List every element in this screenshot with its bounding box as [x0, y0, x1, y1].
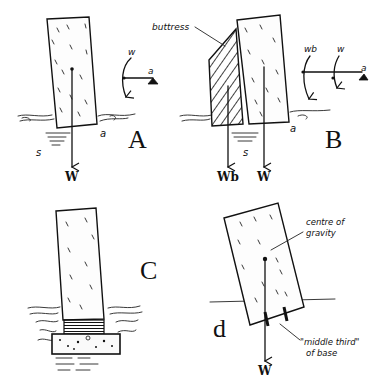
middle-third-label-line1: "middle third"	[300, 337, 360, 347]
subsoil-lines	[56, 358, 98, 370]
cog-label-line2: gravity	[306, 228, 337, 238]
cog-label-line1: centre of	[306, 217, 346, 227]
weight-label-b: W	[256, 170, 271, 184]
pivot-label-a: a	[100, 128, 106, 139]
moment-buttress-label: wb	[304, 44, 317, 54]
panel-b: buttress s Wb W a wb w a B	[152, 15, 368, 184]
panel-d: centre of gravity W "middle third" of ba…	[210, 203, 360, 378]
moment-pivot-label-a: a	[148, 66, 154, 76]
tilted-wall-block	[224, 203, 304, 325]
footing-courses	[64, 320, 104, 334]
buttress-label: buttress	[152, 22, 189, 32]
moment-label-a: w	[128, 47, 136, 57]
pivot-triangle-a	[148, 78, 158, 84]
weight-label-a: W	[64, 170, 79, 184]
panel-label-c: C	[140, 256, 157, 285]
wall-block-b	[237, 15, 289, 124]
buttress-leader	[195, 27, 225, 46]
pivot-triangle-b	[359, 74, 368, 80]
buttress-weight-label: Wb	[216, 170, 239, 184]
panel-a: s W a w a A	[18, 17, 158, 184]
panel-label-d: d	[213, 314, 226, 343]
moment-wall-label-b: w	[337, 44, 345, 54]
buttress	[209, 29, 243, 126]
middle-third-label-line2: of base	[306, 348, 337, 358]
weight-label-d: W	[257, 364, 272, 378]
middle-third-leader	[280, 324, 300, 340]
settlement-label-a: s	[36, 147, 41, 158]
moment-pivot-label-b: a	[361, 63, 367, 73]
panel-c: C	[28, 208, 157, 370]
settlement-lines-a	[46, 133, 70, 145]
panel-label-b: B	[325, 125, 342, 154]
diagram-canvas: s W a w a A buttress	[0, 0, 385, 387]
pier-block	[56, 208, 104, 320]
moment-diagram-a: w a	[122, 47, 158, 97]
moment-diagram-b: wb w a	[301, 44, 368, 99]
pivot-label-b: a	[290, 123, 296, 134]
settlement-label-b: s	[243, 147, 248, 158]
settlement-lines-b	[232, 133, 258, 141]
panel-label-a: A	[128, 125, 147, 154]
